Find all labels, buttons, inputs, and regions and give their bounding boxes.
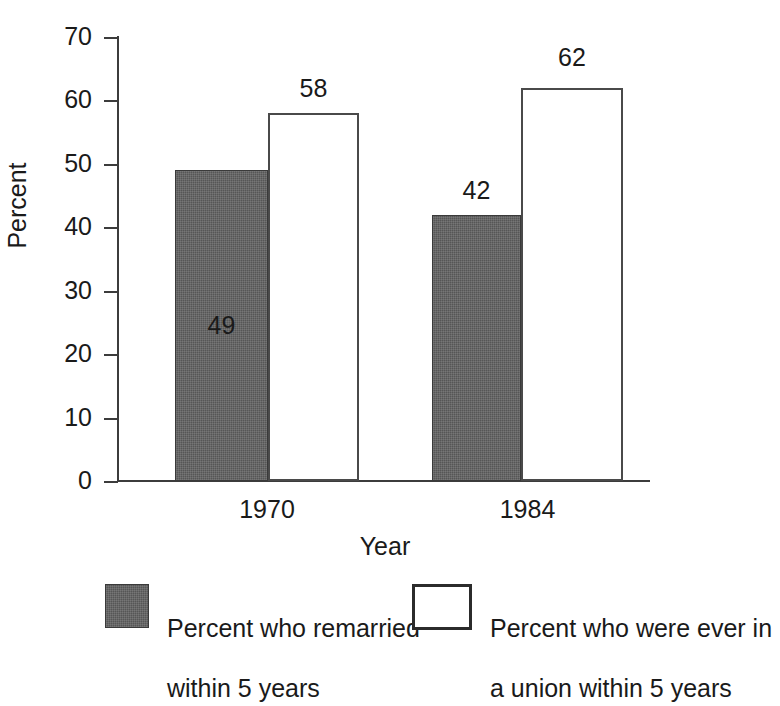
value-label-1970-union: 58: [268, 76, 359, 101]
y-tick-label-30: 30: [30, 278, 92, 303]
legend-item-remarried: Percent who remarried within 5 years: [105, 583, 420, 706]
x-tick-label-1970: 1970: [175, 497, 359, 522]
legend-label-union-line1: Percent who were ever in: [490, 613, 772, 643]
legend-label-union: Percent who were ever in a union within …: [490, 583, 772, 706]
y-tick-label-40: 40: [30, 214, 92, 239]
legend-label-remarried-line1: Percent who remarried: [167, 613, 420, 643]
x-axis-title: Year: [0, 534, 780, 559]
legend-label-remarried: Percent who remarried within 5 years: [167, 583, 420, 706]
y-tick-label-10: 10: [30, 405, 92, 430]
legend-label-union-line2: a union within 5 years: [490, 673, 772, 703]
value-label-1984-union: 62: [521, 45, 623, 70]
y-tick-label-50: 50: [30, 151, 92, 176]
y-tick-label-20: 20: [30, 341, 92, 366]
y-tick-label-70: 70: [30, 24, 92, 49]
y-tick-label-60: 60: [30, 87, 92, 112]
legend-swatch-light-icon: [412, 584, 472, 630]
value-label-1984-remarried: 42: [432, 178, 521, 203]
value-label-1970-remarried: 49: [175, 313, 268, 338]
legend: Percent who remarried within 5 years Per…: [0, 578, 780, 658]
x-tick-label-1984: 1984: [432, 497, 623, 522]
legend-item-union: Percent who were ever in a union within …: [412, 583, 772, 706]
y-tick-label-0: 0: [30, 468, 92, 493]
bar-1984-remarried: [432, 215, 521, 481]
y-axis-title: Percent: [5, 126, 30, 286]
legend-swatch-dark-icon: [105, 584, 149, 628]
bar-1970-union: [268, 113, 359, 481]
legend-label-remarried-line2: within 5 years: [167, 673, 420, 703]
bar-1984-union: [521, 88, 623, 481]
x-axis-title-text: Year: [360, 532, 411, 560]
plot-area: 49 58 42 62: [117, 37, 650, 481]
